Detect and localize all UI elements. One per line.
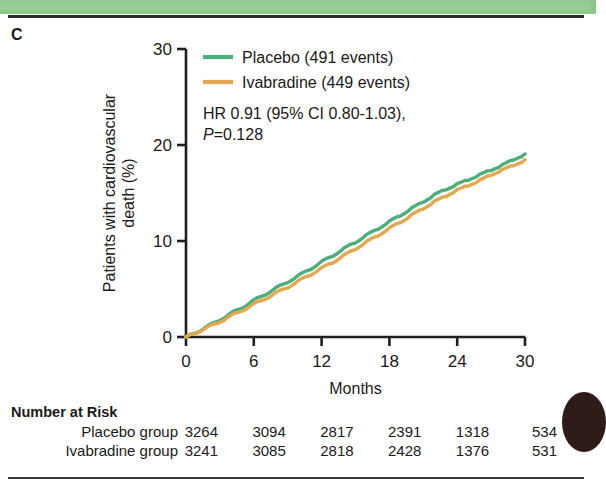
risk-cell: 3264 (172, 423, 218, 440)
x-tick-label: 30 (516, 352, 535, 371)
number-at-risk-title: Number at Risk (11, 404, 117, 420)
risk-row-label: Placebo group (0, 423, 178, 440)
x-tick-label: 6 (249, 352, 258, 371)
risk-cell: 531 (511, 442, 557, 459)
x-tick-label: 18 (380, 352, 399, 371)
risk-cell: 3241 (172, 442, 218, 459)
y-tick-label: 30 (153, 40, 172, 59)
risk-cell: 1376 (443, 442, 489, 459)
table-row: Ivabradine group 3241 3085 2818 2428 137… (0, 442, 590, 461)
series-line-placebo (186, 154, 525, 337)
risk-row-label: Ivabradine group (0, 442, 178, 459)
x-tick-label: 0 (181, 352, 190, 371)
y-tick-label: 0 (163, 328, 172, 347)
table-row: Placebo group 3264 3094 2817 2391 1318 5… (0, 423, 590, 442)
x-tick-label: 12 (312, 352, 331, 371)
scan-artifact (562, 392, 606, 452)
y-tick-label: 20 (153, 136, 172, 155)
risk-cell: 2818 (308, 442, 354, 459)
kaplan-meier-chart: 01020300612182430MonthsPatients with car… (0, 0, 590, 404)
risk-cell: 534 (511, 423, 557, 440)
figure-bottom-rule (8, 477, 584, 479)
risk-cell: 3094 (240, 423, 286, 440)
risk-cell: 2817 (308, 423, 354, 440)
p-value-annotation: P=0.128 (203, 126, 263, 143)
y-axis-title-line: death (%) (120, 158, 137, 227)
risk-cell: 3085 (240, 442, 286, 459)
y-tick-label: 10 (153, 232, 172, 251)
hazard-ratio-annotation: HR 0.91 (95% CI 0.80-1.03), (203, 105, 406, 122)
x-tick-label: 24 (448, 352, 467, 371)
legend-label-ivabradine: Ivabradine (449 events) (242, 74, 410, 91)
risk-cell: 2391 (375, 423, 421, 440)
x-axis-title: Months (329, 380, 381, 397)
risk-cell: 1318 (443, 423, 489, 440)
y-axis-title: Patients with cardiovasculardeath (%) (101, 93, 137, 292)
risk-cell: 2428 (375, 442, 421, 459)
y-axis-title-line: Patients with cardiovascular (101, 93, 118, 292)
legend-label-placebo: Placebo (491 events) (242, 49, 393, 66)
